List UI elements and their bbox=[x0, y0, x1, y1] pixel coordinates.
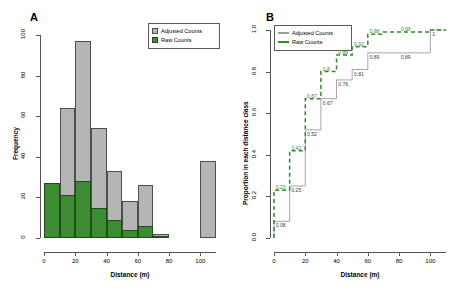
step-label-adjusted: 0.25 bbox=[291, 187, 301, 193]
step-label-adjusted: 0.89 bbox=[401, 54, 411, 60]
histogram-bar-raw bbox=[91, 208, 107, 238]
step-label-raw: 0.98 bbox=[370, 28, 380, 34]
y-tick-mark bbox=[266, 30, 270, 31]
x-tick-mark bbox=[274, 252, 275, 256]
y-tick-mark bbox=[36, 157, 40, 158]
y-tick-mark bbox=[36, 116, 40, 117]
y-tick-mark bbox=[266, 238, 270, 239]
y-tick-label: 1.0 bbox=[251, 18, 257, 40]
step-label-raw: 0.88 bbox=[338, 49, 348, 55]
y-tick-mark bbox=[266, 113, 270, 114]
y-tick-label: 40 bbox=[20, 145, 26, 167]
x-tick-label: 80 bbox=[157, 258, 181, 264]
y-tick-mark bbox=[266, 72, 270, 73]
histogram-bar-raw bbox=[60, 195, 76, 238]
step-label-raw: 0.92 bbox=[354, 41, 364, 47]
y-tick-mark bbox=[36, 35, 40, 36]
panel-a-y-axis bbox=[40, 35, 41, 238]
histogram-bar-raw bbox=[107, 220, 123, 238]
step-label-adjusted: 0.67 bbox=[323, 100, 333, 106]
x-tick-mark bbox=[75, 252, 76, 256]
y-tick-label: 20 bbox=[20, 185, 26, 207]
x-tick-mark bbox=[430, 252, 431, 256]
y-tick-mark bbox=[36, 238, 40, 239]
panel-b-step-lines bbox=[228, 0, 457, 290]
y-tick-label: 0.6 bbox=[251, 101, 257, 123]
x-tick-label: 100 bbox=[188, 258, 212, 264]
y-tick-label: 100 bbox=[20, 23, 26, 45]
y-tick-label: 0 bbox=[20, 226, 26, 248]
x-tick-mark bbox=[305, 252, 306, 256]
panel-a-letter: A bbox=[30, 11, 38, 23]
figure-container: A Adjusted Counts Raw Counts Distance (m… bbox=[0, 0, 457, 290]
legend-item-adjusted: Adjusted Counts bbox=[152, 27, 215, 35]
step-label-raw: 0.23 bbox=[276, 184, 286, 190]
y-tick-label: 80 bbox=[20, 64, 26, 86]
x-tick-label: 80 bbox=[387, 258, 411, 264]
x-tick-label: 40 bbox=[95, 258, 119, 264]
x-tick-label: 40 bbox=[325, 258, 349, 264]
y-tick-label: 0.8 bbox=[251, 60, 257, 82]
step-label-raw: 0.42 bbox=[291, 145, 301, 151]
step-label-adjusted: 0.52 bbox=[307, 131, 317, 137]
panel-a-x-axis bbox=[44, 252, 216, 253]
step-label-adjusted: 0.81 bbox=[354, 71, 364, 77]
y-tick-label: 0.2 bbox=[251, 184, 257, 206]
step-label-raw: 0.67 bbox=[307, 93, 317, 99]
histogram-bar-raw bbox=[44, 183, 60, 238]
panel-a-y-axis-title: Frequency bbox=[12, 127, 19, 160]
step-label-adjusted: 0.76 bbox=[338, 81, 348, 87]
step-label-adjusted: 1 bbox=[432, 31, 435, 37]
panel-a-x-axis-title: Distance (m) bbox=[44, 271, 216, 278]
x-tick-mark bbox=[368, 252, 369, 256]
y-tick-mark bbox=[266, 155, 270, 156]
x-tick-label: 60 bbox=[356, 258, 380, 264]
histogram-bar-raw bbox=[138, 226, 154, 238]
histogram-bar-adjusted bbox=[200, 161, 216, 238]
step-line-adjusted bbox=[274, 30, 446, 238]
step-line-raw bbox=[274, 30, 446, 238]
panel-b: B Adjusted Counts Raw Counts Distance (m… bbox=[228, 0, 457, 290]
x-tick-mark bbox=[200, 252, 201, 256]
histogram-bar-raw bbox=[122, 230, 138, 238]
x-tick-mark bbox=[399, 252, 400, 256]
y-tick-label: 0.4 bbox=[251, 143, 257, 165]
x-tick-label: 20 bbox=[63, 258, 87, 264]
panel-a: A Adjusted Counts Raw Counts Distance (m… bbox=[0, 0, 228, 290]
x-tick-label: 60 bbox=[126, 258, 150, 264]
x-tick-label: 0 bbox=[262, 258, 286, 264]
x-tick-mark bbox=[44, 252, 45, 256]
y-tick-mark bbox=[36, 76, 40, 77]
y-tick-mark bbox=[36, 197, 40, 198]
x-tick-label: 0 bbox=[32, 258, 56, 264]
legend-label-adjusted: Adjusted Counts bbox=[161, 28, 202, 34]
y-tick-label: 60 bbox=[20, 104, 26, 126]
step-label-adjusted: 0.89 bbox=[370, 54, 380, 60]
y-tick-mark bbox=[266, 196, 270, 197]
histogram-bar-raw bbox=[153, 236, 169, 238]
x-tick-mark bbox=[337, 252, 338, 256]
step-label-raw: 0.99 bbox=[401, 26, 411, 32]
y-tick-label: 0.0 bbox=[251, 226, 257, 248]
x-tick-mark bbox=[138, 252, 139, 256]
step-label-adjusted: 0.08 bbox=[276, 222, 286, 228]
x-tick-mark bbox=[107, 252, 108, 256]
step-label-raw: 0.8 bbox=[323, 66, 330, 72]
x-tick-mark bbox=[169, 252, 170, 256]
x-tick-label: 100 bbox=[418, 258, 442, 264]
histogram-bar-raw bbox=[75, 181, 91, 238]
x-tick-label: 20 bbox=[293, 258, 317, 264]
legend-swatch-adjusted-icon bbox=[152, 28, 158, 34]
